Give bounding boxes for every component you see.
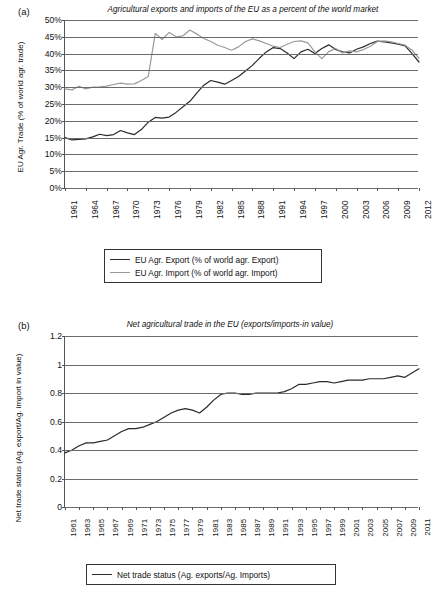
x-tick-mark	[192, 507, 193, 510]
y-tick-mark	[62, 336, 65, 337]
legend-swatch-icon	[92, 574, 112, 575]
x-tick-label: 2006	[382, 200, 392, 219]
x-tick-mark	[249, 507, 250, 510]
x-tick-mark	[93, 507, 94, 510]
gridline	[65, 87, 418, 88]
legend-label: EU Agr. Import (% of world agr. Import)	[135, 268, 277, 278]
panel-a: (a) Agricultural exports and imports of …	[0, 0, 426, 300]
y-tick-label: 20%	[45, 116, 62, 126]
y-tick-label: 5%	[50, 166, 62, 176]
y-tick-label: 0.2	[50, 474, 62, 484]
x-tick-mark	[169, 188, 170, 191]
legend-swatch-icon	[110, 272, 130, 273]
x-tick-mark	[263, 507, 264, 510]
y-tick-mark	[62, 121, 65, 122]
panel-b-letter: (b)	[18, 320, 30, 331]
x-tick-mark	[315, 188, 316, 191]
x-tick-label: 2009	[402, 200, 412, 219]
y-tick-mark	[62, 450, 65, 451]
x-tick-label: 1982	[215, 200, 225, 219]
x-tick-label: 1961	[69, 200, 79, 219]
x-tick-mark	[136, 507, 137, 510]
series-line	[65, 30, 419, 90]
y-tick-mark	[62, 70, 65, 71]
x-tick-mark	[398, 188, 399, 191]
y-tick-mark	[62, 154, 65, 155]
y-tick-mark	[62, 20, 65, 21]
gridline	[65, 154, 418, 155]
gridline	[65, 479, 418, 480]
y-tick-label: 30%	[45, 82, 62, 92]
x-tick-mark	[207, 507, 208, 510]
x-tick-label: 1976	[173, 200, 183, 219]
y-tick-mark	[62, 393, 65, 394]
x-tick-label: 1997	[324, 519, 333, 537]
y-tick-mark	[62, 87, 65, 88]
y-tick-label: 10%	[45, 149, 62, 159]
gridline	[65, 422, 418, 423]
gridline	[65, 37, 418, 38]
gridline	[65, 336, 418, 337]
y-tick-label: 0.4	[50, 445, 62, 455]
x-tick-mark	[334, 507, 335, 510]
y-tick-label: 45%	[45, 32, 62, 42]
panel-a-yaxis-title: EU Agr. Trade (% of world agr. trade)	[16, 22, 25, 192]
gridline	[65, 171, 418, 172]
x-tick-label: 1975	[169, 519, 178, 537]
panel-b-yaxis-title: Net trade status (Ag. export/Ag. import …	[14, 348, 24, 528]
panel-b: (b) Net agricultural trade in the EU (ex…	[0, 300, 426, 596]
x-tick-label: 1970	[132, 200, 142, 219]
x-tick-label: 1973	[153, 200, 163, 219]
x-tick-mark	[357, 188, 358, 191]
x-tick-label: 1987	[253, 519, 262, 537]
legend-entry: EU Agr. Export (% of world agr. Export)	[110, 253, 314, 266]
x-tick-label: 2003	[367, 519, 376, 537]
x-tick-label: 2009	[409, 519, 418, 537]
x-tick-label: 1973	[154, 519, 163, 537]
x-tick-mark	[405, 507, 406, 510]
y-tick-label: 0	[57, 502, 62, 512]
x-tick-label: 1969	[126, 519, 135, 537]
x-tick-label: 2012	[423, 200, 433, 219]
panel-a-title: Agricultural exports and imports of the …	[60, 5, 426, 14]
legend-label: Net trade status (Ag. exports/Ag. Import…	[117, 570, 270, 580]
gridline	[65, 450, 418, 451]
x-tick-mark	[292, 507, 293, 510]
gridline	[65, 121, 418, 122]
x-tick-label: 1977	[183, 519, 192, 537]
y-tick-label: 40%	[45, 49, 62, 59]
x-tick-label: 1967	[111, 200, 121, 219]
x-tick-label: 2001	[353, 519, 362, 537]
x-tick-label: 1999	[338, 519, 347, 537]
x-tick-label: 1981	[211, 519, 220, 537]
y-tick-label: 15%	[45, 133, 62, 143]
panel-a-plot-area: 0%5%10%15%20%25%30%35%40%45%50%196119641…	[64, 20, 418, 188]
x-tick-label: 1979	[194, 200, 204, 219]
x-tick-mark	[122, 507, 123, 510]
x-tick-label: 1971	[140, 519, 149, 537]
x-tick-mark	[336, 188, 337, 191]
x-tick-mark	[377, 188, 378, 191]
x-tick-mark	[148, 188, 149, 191]
x-tick-label: 1979	[197, 519, 206, 537]
x-tick-mark	[320, 507, 321, 510]
x-tick-mark	[277, 507, 278, 510]
panel-a-letter: (a)	[18, 6, 30, 17]
x-tick-label: 2000	[340, 200, 350, 219]
y-tick-label: 0.6	[50, 417, 62, 427]
y-tick-label: 35%	[45, 65, 62, 75]
x-tick-mark	[211, 188, 212, 191]
x-tick-label: 2007	[395, 519, 404, 537]
x-tick-mark	[419, 507, 420, 510]
y-tick-mark	[62, 422, 65, 423]
x-tick-mark	[377, 507, 378, 510]
x-tick-mark	[150, 507, 151, 510]
gridline	[65, 188, 418, 189]
x-tick-label: 1993	[296, 519, 305, 537]
x-tick-label: 1963	[84, 519, 93, 537]
x-tick-label: 1989	[268, 519, 277, 537]
x-tick-label: 1965	[98, 519, 107, 537]
x-tick-label: 1985	[239, 519, 248, 537]
x-tick-label: 1961	[69, 519, 78, 537]
gridline	[65, 365, 418, 366]
